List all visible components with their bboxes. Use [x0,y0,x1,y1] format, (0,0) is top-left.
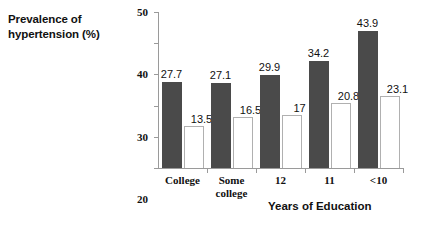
x-axis-separator [305,168,306,173]
bar-series-2-2: 17 [282,115,302,168]
category-label: College [165,174,200,187]
y-tick-mark: 40 [154,43,158,44]
category-label: 12 [275,174,286,187]
y-axis-title-line-1: Prevalence of [8,12,130,27]
x-axis-line [158,168,403,169]
bar-value-label: 29.9 [259,61,280,73]
y-tick-mark: 50 [154,12,158,13]
x-axis-title: Years of Education [268,200,372,212]
bar-series-2-0: 13.5 [184,126,204,168]
bar-series-1-3: 34.2 [309,61,329,168]
y-tick-mark: 30 [154,74,158,75]
bar-series-2-1: 16.5 [233,117,253,168]
bar-series-1-2: 29.9 [260,75,280,168]
plot-area: 01020304050 27.713.527.116.529.91734.220… [158,12,403,168]
y-axis-line [158,12,159,168]
category-label: 11 [324,174,334,187]
bar-series-1-0: 27.7 [162,82,182,168]
y-tick-label: 30 [137,131,148,143]
y-tick-label: 50 [137,6,148,18]
bar-series-2-4: 23.1 [380,96,400,168]
bar-value-label: 13.5 [191,113,212,125]
y-axis-title-line-2: hypertension (%) [8,27,130,42]
bar-value-label: 27.7 [161,68,182,80]
bar-series-1-4: 43.9 [358,31,378,168]
y-axis-title: Prevalence of hypertension (%) [8,12,130,42]
y-tick-label: 40 [137,68,148,80]
bar-value-label: 27.1 [210,69,231,81]
x-axis-separator [403,168,404,173]
bar-value-label: 17 [293,102,305,114]
bar-value-label: 16.5 [240,104,261,116]
x-axis-separator [207,168,208,173]
bar-value-label: 20.8 [338,90,359,102]
x-axis-separator [256,168,257,173]
y-tick-label: 20 [137,193,148,205]
bar-value-label: 34.2 [308,47,329,59]
category-label: <10 [370,174,387,187]
x-axis-separator [354,168,355,173]
bar-series-2-3: 20.8 [331,103,351,168]
bar-value-label: 23.1 [387,83,408,95]
category-label: Some college [216,174,248,200]
bar-value-label: 43.9 [357,17,378,29]
bar-series-1-1: 27.1 [211,83,231,168]
bar-chart-figure: Prevalence of hypertension (%) 010203040… [0,0,423,228]
y-tick-mark: 10 [154,137,158,138]
y-tick-mark: 0 [154,168,158,169]
y-tick-mark: 20 [154,106,158,107]
